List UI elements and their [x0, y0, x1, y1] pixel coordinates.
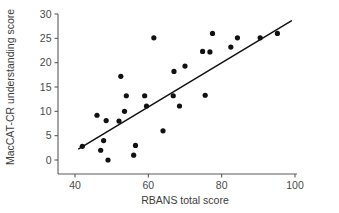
data-point: [98, 148, 103, 153]
data-point: [182, 63, 187, 68]
x-axis-title: RBANS total score: [141, 194, 229, 206]
x-tick-label: 100: [286, 179, 304, 191]
data-point: [207, 49, 212, 54]
data-point: [171, 69, 176, 74]
y-tick-label: 20: [40, 56, 52, 68]
data-point: [228, 44, 233, 49]
y-tick-label: 30: [40, 8, 52, 20]
data-point: [258, 35, 263, 40]
y-axis-title: MacCAT-CR understanding score: [4, 9, 16, 165]
x-tick-label: 80: [216, 179, 228, 191]
data-point: [160, 128, 165, 133]
data-point: [210, 31, 215, 36]
data-point: [118, 74, 123, 79]
y-tick-label: 10: [40, 105, 52, 117]
x-tick-label: 40: [69, 179, 81, 191]
data-point: [131, 153, 136, 158]
y-tick-label: 25: [40, 32, 52, 44]
data-point: [105, 157, 110, 162]
data-point: [144, 103, 149, 108]
data-point: [80, 144, 85, 149]
data-point: [200, 49, 205, 54]
y-tick-label: 0: [46, 154, 52, 166]
data-point: [142, 93, 147, 98]
data-point: [116, 118, 121, 123]
data-point: [151, 35, 156, 40]
data-points-group: [80, 31, 280, 163]
chart-canvas: 051015202530406080100RBANS total scoreMa…: [0, 0, 339, 213]
data-point: [124, 93, 129, 98]
data-point: [235, 35, 240, 40]
data-point: [203, 93, 208, 98]
data-point: [94, 113, 99, 118]
data-point: [177, 103, 182, 108]
x-tick-label: 60: [142, 179, 154, 191]
data-point: [101, 138, 106, 143]
y-tick-label: 5: [46, 129, 52, 141]
scatter-plot-figure: 051015202530406080100RBANS total scoreMa…: [0, 0, 339, 213]
data-point: [275, 31, 280, 36]
y-tick-label: 15: [40, 81, 52, 93]
data-point: [122, 109, 127, 114]
data-point: [133, 143, 138, 148]
data-point: [171, 93, 176, 98]
data-point: [104, 118, 109, 123]
